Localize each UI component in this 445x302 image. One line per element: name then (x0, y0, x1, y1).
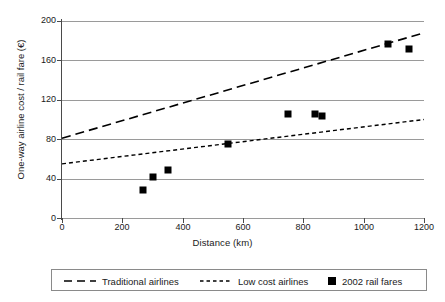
y-tick-label: 120 (41, 95, 56, 104)
x-tick-label: 800 (295, 222, 310, 232)
x-tick-label: 200 (114, 222, 129, 232)
chart-figure: One-way airline cost / rail fare (€) 200… (0, 0, 445, 302)
rail-fare-marker (224, 141, 231, 148)
rail-fare-marker (140, 187, 147, 194)
y-tick-label: 200 (41, 16, 56, 25)
black-square-marker-icon (328, 277, 336, 285)
rail-fare-marker (285, 110, 292, 117)
trend-lines-svg (62, 21, 424, 218)
short-dash-line-icon (200, 276, 232, 286)
y-tick-label: 160 (41, 56, 56, 65)
x-tick-label: 400 (175, 222, 190, 232)
legend-item-low-cost-airlines: Low cost airlines (200, 270, 308, 292)
traditional-airlines-trendline (62, 33, 424, 138)
rail-fare-marker (164, 166, 171, 173)
x-tick-label: 0 (59, 222, 64, 232)
x-tick-label: 600 (235, 222, 250, 232)
rail-fare-marker (319, 112, 326, 119)
legend-label-traditional-airlines: Traditional airlines (102, 276, 179, 287)
long-dash-line-icon (64, 276, 96, 286)
y-tick-labels: 200 160 120 80 40 0 (0, 0, 56, 240)
legend-item-2002-rail-fares: 2002 rail fares (328, 270, 402, 292)
x-tick-label: 1000 (354, 222, 374, 232)
x-axis-title: Distance (km) (0, 237, 445, 248)
chart-legend: Traditional airlines Low cost airlines 2… (51, 269, 427, 291)
legend-label-2002-rail-fares: 2002 rail fares (342, 276, 402, 287)
y-tick-label: 80 (46, 135, 56, 144)
plot-canvas (62, 21, 424, 218)
rail-fare-marker (405, 45, 412, 52)
rail-fare-marker (149, 173, 156, 180)
legend-label-low-cost-airlines: Low cost airlines (238, 276, 308, 287)
x-tick-label: 1200 (414, 222, 434, 232)
rail-fare-marker (384, 40, 391, 47)
low-cost-airlines-trendline (62, 120, 424, 164)
y-tick-label: 40 (46, 174, 56, 183)
x-tick-labels: 0 200 400 600 800 1000 1200 (0, 222, 445, 236)
legend-item-traditional-airlines: Traditional airlines (64, 270, 179, 292)
chart-plot-area: One-way airline cost / rail fare (€) 200… (0, 0, 445, 255)
